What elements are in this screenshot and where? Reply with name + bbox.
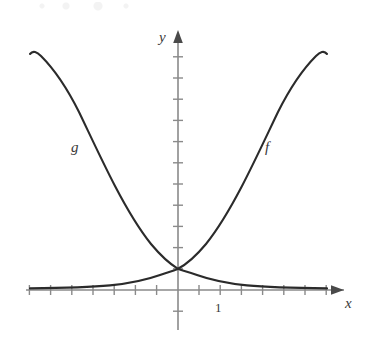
curve-label-f: f xyxy=(265,139,271,155)
x-tick-label-one: 1 xyxy=(215,300,222,315)
curve-label-g: g xyxy=(71,139,79,155)
y-axis-label: y xyxy=(157,29,166,45)
exponential-functions-figure: g f y x 1 xyxy=(0,0,370,351)
labels-group: g f y x 1 xyxy=(71,29,352,315)
axes-group xyxy=(26,30,344,330)
x-axis-arrowhead xyxy=(331,285,344,295)
y-axis-arrowhead xyxy=(173,30,183,43)
x-axis-label: x xyxy=(344,295,352,311)
